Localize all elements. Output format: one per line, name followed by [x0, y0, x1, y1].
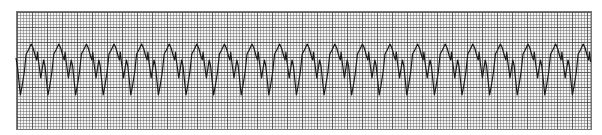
ecg-waveform: [0, 0, 602, 135]
